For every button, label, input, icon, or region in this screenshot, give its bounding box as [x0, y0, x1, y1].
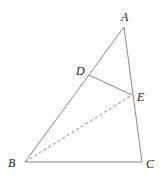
triangle-diagram: A B C D E — [0, 0, 168, 178]
segment-DE — [89, 75, 132, 95]
label-B: B — [8, 156, 16, 170]
label-C: C — [146, 157, 155, 171]
segment-AB — [25, 27, 124, 162]
segment-BE-dashed — [25, 95, 132, 162]
label-E: E — [136, 90, 145, 104]
label-D: D — [75, 64, 85, 78]
label-A: A — [120, 10, 129, 24]
